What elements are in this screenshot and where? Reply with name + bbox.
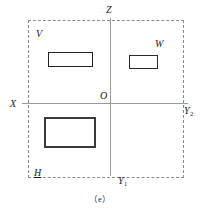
label-y1-base: Y <box>118 175 124 186</box>
label-x: X <box>10 99 16 109</box>
label-y2-subscript: 2 <box>190 110 193 117</box>
label-y2-base: Y <box>184 105 190 116</box>
label-origin: O <box>100 91 107 101</box>
label-z: Z <box>106 5 112 15</box>
diagram-figure: Z V W X O Y2 H Y1 （e） <box>0 0 200 208</box>
label-v: V <box>36 29 42 39</box>
label-h: H <box>34 168 41 178</box>
label-y2: Y2 <box>184 106 193 116</box>
horizontal-axis <box>22 103 188 104</box>
rectangle-h <box>44 117 96 148</box>
label-w: W <box>155 39 163 49</box>
vertical-axis <box>110 18 111 176</box>
label-y1-subscript: 1 <box>124 180 127 187</box>
figure-caption: （e） <box>89 192 111 204</box>
rectangle-v <box>48 52 93 67</box>
label-y1: Y1 <box>118 176 127 186</box>
rectangle-w <box>129 55 158 69</box>
